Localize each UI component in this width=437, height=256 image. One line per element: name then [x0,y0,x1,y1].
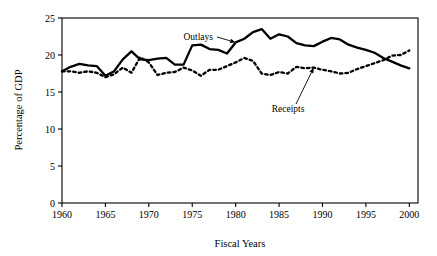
federal-outlays-receipts-line-chart: 0510152025 19601965197019751980198519901… [0,0,437,256]
y-axis-title: Percentage of GDP [13,69,24,150]
chart-container: 0510152025 19601965197019751980198519901… [0,0,437,256]
y-tick-label: 25 [45,13,55,24]
y-tick-label: 5 [50,161,55,172]
x-axis: 196019651970197519801985199019952000 [52,203,419,220]
plot-frame [62,18,418,203]
x-tick-label: 1975 [182,209,202,220]
x-tick-label: 1985 [269,209,289,220]
annotation-leader-line [296,73,311,104]
y-tick-label: 20 [45,50,55,61]
x-tick-label: 1980 [226,209,246,220]
x-tick-label: 1960 [52,209,72,220]
x-tick-label: 1995 [356,209,376,220]
annotation-arrowhead-icon [230,39,236,43]
x-tick-label: 2000 [399,209,419,220]
x-tick-label: 1990 [312,209,332,220]
series-line-receipts [62,51,409,78]
series-annotation-label-receipts: Receipts [272,104,305,114]
y-tick-label: 0 [50,198,55,209]
y-axis: 0510152025 [45,13,62,209]
x-axis-title: Fiscal Years [215,238,266,249]
y-tick-label: 15 [45,87,55,98]
x-tick-label: 1970 [139,209,159,220]
y-tick-label: 10 [45,124,55,135]
x-tick-label: 1965 [95,209,115,220]
annotation-leader-line [217,37,230,41]
series-annotation-label-outlays: Outlays [183,32,213,42]
